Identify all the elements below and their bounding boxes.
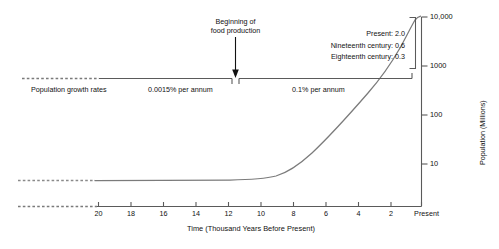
callout-line-nineteenth-century: Nineteenth century: 0.6 — [250, 40, 405, 52]
x-axis-title: Time (Thousand Years Before Present) — [187, 224, 315, 233]
x-tick-label-14: 14 — [181, 209, 211, 218]
y-tick-label-10000: 10,000 — [430, 12, 453, 21]
callout-line-present: Present: 2.0 — [250, 28, 405, 40]
x-tick-label-16: 16 — [149, 209, 179, 218]
x-tick-label-4: 4 — [344, 209, 374, 218]
x-tick-label-6: 6 — [311, 209, 341, 218]
population-growth-chart: 10,000 1000 100 10 Population (Millions)… — [0, 0, 499, 249]
growth-rates-label: Population growth rates — [31, 85, 107, 94]
x-tick-label-8: 8 — [279, 209, 309, 218]
x-ticks — [99, 202, 422, 207]
x-tick-label-10: 10 — [246, 209, 276, 218]
y-axis-title: Population (Millions) — [478, 100, 487, 165]
callout-line-eighteenth-century: Eighteenth century: 0.3 — [250, 51, 405, 63]
rate-ancient-label: 0.0015% per annum — [148, 85, 213, 94]
y-tick-label-10: 10 — [430, 159, 438, 168]
rate-modern-label: 0.1% per annum — [292, 85, 345, 94]
x-tick-label-18: 18 — [116, 209, 146, 218]
x-tick-label-2: 2 — [376, 209, 406, 218]
growth-rate-callout: Present: 2.0 Nineteenth century: 0.6 Eig… — [250, 28, 405, 63]
x-tick-label-present: Present — [407, 209, 447, 218]
food-production-arrow-head — [232, 70, 239, 79]
y-tick-label-100: 100 — [430, 110, 442, 119]
x-tick-label-20: 20 — [84, 209, 114, 218]
x-tick-label-12: 12 — [214, 209, 244, 218]
y-tick-label-1000: 1000 — [430, 61, 446, 70]
